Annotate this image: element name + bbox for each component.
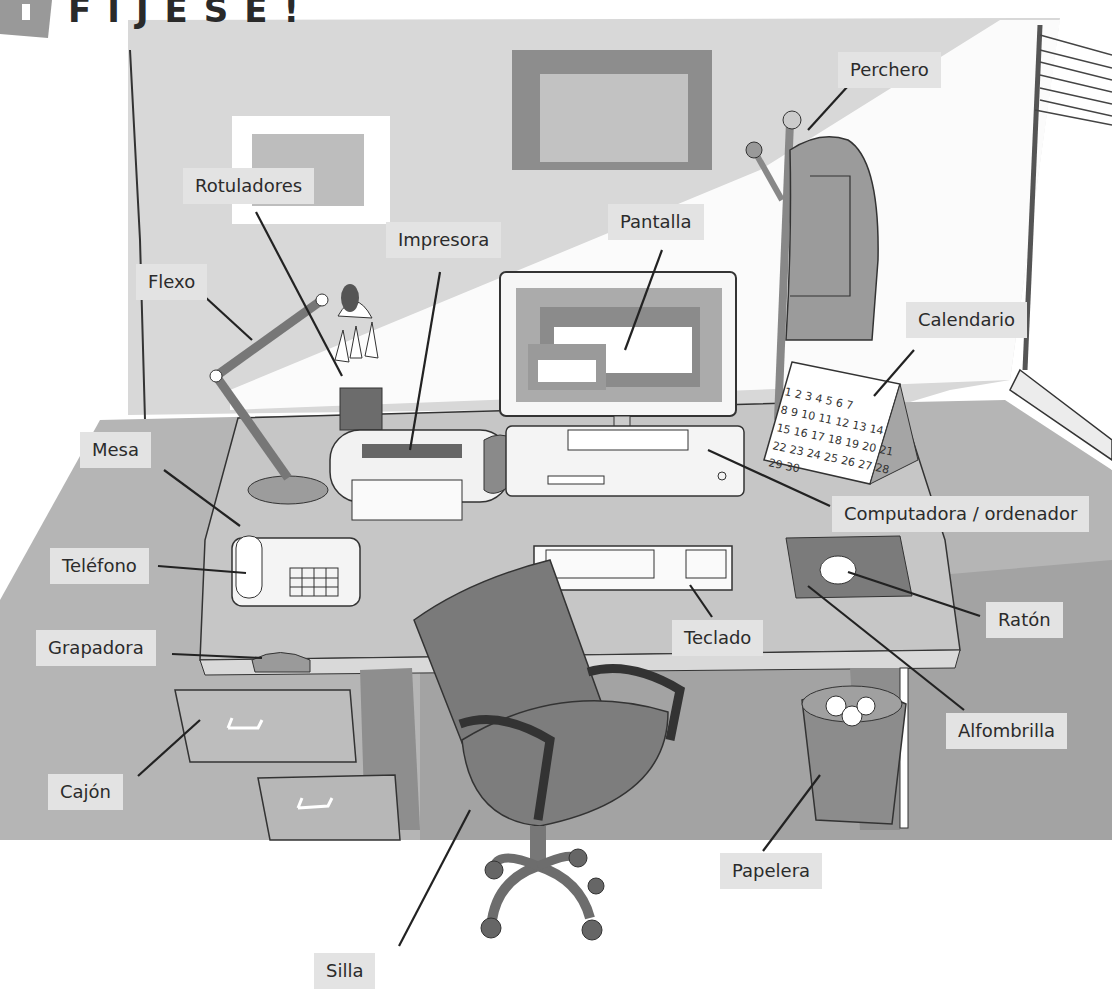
label-perchero: Perchero [838, 52, 941, 88]
printer-slot [362, 444, 462, 458]
section-title: FÍJESE! [68, 0, 315, 30]
label-telefono: Teléfono [50, 548, 149, 584]
telephone-handset [236, 536, 262, 598]
lamp-joint [210, 370, 222, 382]
pen-holder [340, 388, 382, 430]
coat-rack-knob [783, 111, 801, 129]
exercise-number-badge [0, 0, 52, 38]
drawer-bottom [258, 775, 400, 840]
printer-paper [352, 480, 462, 520]
label-flexo: Flexo [136, 264, 207, 300]
lamp-cap [341, 284, 359, 312]
screen-window-small-content [538, 360, 596, 382]
label-cajon: Cajón [48, 774, 123, 810]
label-mesa: Mesa [80, 432, 151, 468]
label-computadora: Computadora / ordenador [832, 496, 1089, 532]
label-teclado: Teclado [672, 620, 763, 656]
computer-slot [548, 476, 604, 484]
label-raton: Ratón [986, 602, 1063, 638]
coat-rack-knob [746, 142, 762, 158]
lamp-base [248, 476, 328, 504]
label-grapadora: Grapadora [36, 630, 156, 666]
label-papelera: Papelera [720, 853, 822, 889]
mouse [820, 556, 856, 584]
label-impresora: Impresora [386, 222, 501, 258]
label-rotuladores: Rotuladores [183, 168, 314, 204]
chair-base [481, 849, 604, 940]
wall-picture [540, 74, 688, 162]
label-calendario: Calendario [906, 302, 1027, 338]
label-silla: Silla [314, 953, 375, 989]
keyboard [534, 546, 732, 590]
coat [786, 137, 878, 340]
label-alfombrilla: Alfombrilla [946, 713, 1067, 749]
drawer-top [175, 690, 356, 762]
label-pantalla: Pantalla [608, 204, 704, 240]
computer-drive [568, 430, 688, 450]
lamp-joint [316, 294, 328, 306]
